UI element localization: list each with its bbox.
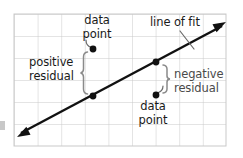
upper-data-point	[90, 46, 97, 53]
lower-data-point-label-line1: data	[140, 100, 166, 114]
page-edge-artifact	[0, 121, 5, 130]
figure-canvas: line of fit data point data point positi…	[0, 0, 243, 158]
positive-residual-label-line2: residual	[29, 70, 74, 84]
lower-line-point	[153, 59, 160, 66]
upper-line-point	[90, 93, 97, 100]
positive-residual-label: positive residual	[29, 56, 74, 84]
lower-data-point-label-line2: point	[139, 114, 168, 128]
lower-data-point-label: data point	[133, 100, 173, 128]
upper-data-point-label-line2: point	[83, 28, 112, 42]
positive-residual-label-line1: positive	[29, 56, 73, 70]
upper-data-point-label-line1: data	[84, 14, 110, 28]
upper-data-point-label: data point	[77, 14, 117, 42]
negative-residual-label-line1: negative	[174, 68, 224, 82]
negative-residual-label: negative residual	[174, 68, 224, 96]
line-of-fit-label: line of fit	[150, 16, 200, 30]
negative-residual-label-line2: residual	[174, 82, 219, 96]
lower-data-point	[153, 92, 160, 99]
